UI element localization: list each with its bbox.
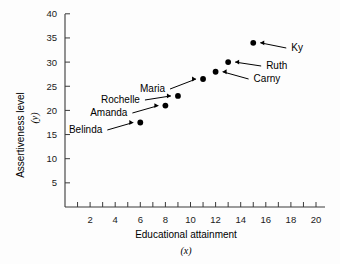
y-tick-label: 35 xyxy=(46,32,57,43)
annotation-arrowhead xyxy=(129,120,133,125)
annotation-arrowhead xyxy=(223,69,227,74)
y-tick-label: 40 xyxy=(46,8,57,19)
point-label-belinda: Belinda xyxy=(69,124,103,135)
data-point xyxy=(175,93,181,99)
x-tick-label: 18 xyxy=(286,214,297,225)
point-label-amanda: Amanda xyxy=(90,107,128,118)
plot-canvas: 510152025303540 2468101214161820 Belinda… xyxy=(0,0,340,264)
y-tick-label: 10 xyxy=(46,153,57,164)
x-tick-label: 16 xyxy=(261,214,272,225)
data-point xyxy=(213,69,219,75)
point-label-ruth: Ruth xyxy=(266,60,287,71)
x-tick-label: 8 xyxy=(163,214,168,225)
x-tick-label: 6 xyxy=(138,214,143,225)
annotation-arrowhead xyxy=(167,94,171,99)
point-label-carny: Carny xyxy=(254,73,281,84)
annotation-arrowhead xyxy=(192,77,196,82)
y-tick-label: 25 xyxy=(46,81,57,92)
y-axis-ticks: 510152025303540 xyxy=(46,8,70,188)
data-point xyxy=(137,120,143,126)
x-tick-label: 10 xyxy=(185,214,196,225)
y-axis-title-text: Assertiveness level xyxy=(15,92,26,178)
point-label-rochelle: Rochelle xyxy=(101,94,140,105)
x-axis-ticks: 2468101214161820 xyxy=(78,202,322,225)
y-tick-label: 20 xyxy=(46,105,57,116)
data-point xyxy=(200,76,206,82)
x-tick-label: 2 xyxy=(87,214,92,225)
annotation-label-group: BelindaAmandaRochelleMariaCarnyRuthKy xyxy=(69,42,303,135)
x-axis-title-text: Educational attainment xyxy=(135,229,237,240)
scatter-plot-figure: 510152025303540 2468101214161820 Belinda… xyxy=(0,0,340,264)
point-label-maria: Maria xyxy=(140,83,165,94)
annotation-arrowhead xyxy=(154,103,158,108)
x-tick-label: 12 xyxy=(210,214,221,225)
y-axis-title: Assertiveness level (y) xyxy=(15,92,41,178)
y-axis-title-variable: (y) xyxy=(29,112,41,124)
data-point xyxy=(250,40,256,46)
data-point xyxy=(225,59,231,65)
x-tick-label: 14 xyxy=(235,214,246,225)
x-axis-title-variable: (x) xyxy=(180,245,192,257)
x-axis-title: Educational attainment (x) xyxy=(135,229,237,257)
annotation-leader-group xyxy=(107,40,286,130)
y-tick-label: 30 xyxy=(46,57,57,68)
data-point xyxy=(163,103,169,109)
x-tick-label: 4 xyxy=(113,214,118,225)
y-tick-label: 5 xyxy=(52,177,57,188)
annotation-arrowhead xyxy=(235,60,239,65)
y-tick-label: 15 xyxy=(46,129,57,140)
annotation-arrowhead xyxy=(260,40,264,45)
point-label-ky: Ky xyxy=(291,42,303,53)
x-tick-label: 20 xyxy=(311,214,322,225)
